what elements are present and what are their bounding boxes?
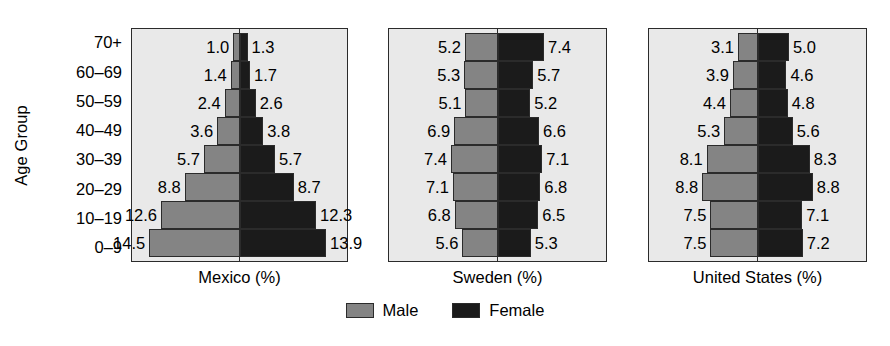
plot-panel-united-states: 3.15.03.94.64.44.85.35.68.18.38.88.87.57…: [648, 28, 867, 262]
pyramid-row: 5.15.2: [389, 89, 606, 117]
value-label-male-sweden-40–49: 6.9: [427, 123, 450, 140]
value-label-female-mexico-40–49: 3.8: [267, 123, 290, 140]
pyramid-row: 5.35.7: [389, 61, 606, 89]
pyramid-row: 8.88.7: [132, 173, 347, 201]
bar-male-mexico-30–39: [204, 145, 239, 172]
pyramid-row: 7.16.8: [389, 173, 606, 201]
legend-swatch-female-icon: [452, 303, 480, 318]
value-label-female-united-states-50–59: 4.8: [792, 95, 815, 112]
bar-male-sweden-30–39: [451, 145, 498, 172]
value-label-female-united-states-30–39: 8.3: [814, 151, 837, 168]
value-label-male-united-states-30–39: 8.1: [680, 151, 703, 168]
y-tick-50-59: 50–59: [38, 93, 126, 110]
bar-female-united-states-60–69: [758, 61, 787, 88]
bar-female-sweden-70+: [498, 33, 545, 60]
pyramid-row: 2.42.6: [132, 89, 347, 117]
value-label-male-united-states-70+: 3.1: [711, 39, 734, 56]
value-label-female-mexico-30–39: 5.7: [279, 151, 302, 168]
bar-male-sweden-50–59: [465, 89, 497, 116]
bar-female-mexico-20–29: [240, 173, 294, 200]
bar-female-united-states-10–19: [758, 201, 803, 228]
value-label-male-sweden-0–9: 5.6: [435, 235, 458, 252]
bar-female-sweden-0–9: [498, 229, 531, 256]
bar-male-mexico-0–9: [149, 229, 239, 256]
value-label-female-mexico-60–69: 1.7: [254, 67, 277, 84]
value-label-female-sweden-0–9: 5.3: [535, 235, 558, 252]
plot-panel-mexico: 1.01.31.41.72.42.63.63.85.75.78.88.712.6…: [131, 28, 348, 262]
bar-male-united-states-40–49: [724, 117, 757, 144]
pyramid-row: 1.01.3: [132, 33, 347, 61]
bar-male-sweden-0–9: [462, 229, 497, 256]
value-label-female-sweden-10–19: 6.5: [542, 207, 565, 224]
value-label-male-sweden-70+: 5.2: [438, 39, 461, 56]
value-label-male-sweden-30–39: 7.4: [424, 151, 447, 168]
bar-male-mexico-50–59: [225, 89, 240, 116]
bar-female-mexico-0–9: [240, 229, 327, 256]
bar-male-mexico-60–69: [231, 61, 240, 88]
bar-female-united-states-50–59: [758, 89, 788, 116]
pyramid-row: 3.94.6: [649, 61, 866, 89]
pyramid-row: 4.44.8: [649, 89, 866, 117]
bar-male-united-states-60–69: [733, 61, 758, 88]
bar-male-united-states-0–9: [710, 229, 757, 256]
value-label-male-sweden-60–69: 5.3: [437, 67, 460, 84]
bar-female-united-states-30–39: [758, 145, 810, 172]
value-label-male-mexico-10–19: 12.6: [125, 207, 157, 224]
legend-swatch-male-icon: [346, 303, 374, 318]
pyramid-row: 8.88.8: [649, 173, 866, 201]
y-tick-30-39: 30–39: [38, 151, 126, 168]
legend-label-male: Male: [383, 302, 419, 319]
value-label-female-united-states-70+: 5.0: [793, 39, 816, 56]
plot-area-mexico: 1.01.31.41.72.42.63.63.85.75.78.88.712.6…: [132, 29, 347, 261]
pyramid-row: 3.15.0: [649, 33, 866, 61]
y-tick-10-19: 10–19: [38, 210, 126, 227]
bar-female-sweden-20–29: [498, 173, 541, 200]
y-tick-20-29: 20–29: [38, 181, 126, 198]
bar-female-mexico-50–59: [240, 89, 256, 116]
bar-male-sweden-10–19: [455, 201, 498, 228]
value-label-female-united-states-10–19: 7.1: [806, 207, 829, 224]
y-tick-40-49: 40–49: [38, 122, 126, 139]
value-label-male-sweden-10–19: 6.8: [428, 207, 451, 224]
value-label-male-mexico-0–9: 14.5: [113, 235, 145, 252]
bar-male-mexico-10–19: [161, 201, 239, 228]
bar-male-united-states-70+: [738, 33, 757, 60]
value-label-female-sweden-30–39: 7.1: [546, 151, 569, 168]
value-label-male-united-states-50–59: 4.4: [703, 95, 726, 112]
pyramid-row: 6.86.5: [389, 201, 606, 229]
bar-male-sweden-70+: [465, 33, 498, 60]
bar-rows-mexico: 1.01.31.41.72.42.63.63.85.75.78.88.712.6…: [132, 33, 347, 257]
panel-caption-mexico: Mexico (%): [131, 268, 348, 287]
pyramid-row: 7.57.1: [649, 201, 866, 229]
value-label-female-mexico-20–29: 8.7: [298, 179, 321, 196]
value-label-male-sweden-50–59: 5.1: [439, 95, 462, 112]
bar-female-united-states-0–9: [758, 229, 803, 256]
panel-caption-sweden: Sweden (%): [388, 268, 607, 287]
bar-female-united-states-70+: [758, 33, 789, 60]
value-label-male-mexico-20–29: 8.8: [158, 179, 181, 196]
plot-area-united-states: 3.15.03.94.64.44.85.35.68.18.38.88.87.57…: [649, 29, 866, 261]
value-label-female-mexico-10–19: 12.3: [320, 207, 352, 224]
bar-male-united-states-20–29: [702, 173, 757, 200]
value-label-female-sweden-50–59: 5.2: [534, 95, 557, 112]
pyramid-row: 12.612.3: [132, 201, 347, 229]
y-tick-70plus: 70+: [38, 34, 126, 51]
bar-female-united-states-40–49: [758, 117, 793, 144]
value-label-female-united-states-0–9: 7.2: [807, 235, 830, 252]
value-label-female-sweden-70+: 7.4: [548, 39, 571, 56]
pyramid-row: 7.47.1: [389, 145, 606, 173]
value-label-female-sweden-20–29: 6.8: [544, 179, 567, 196]
pyramid-row: 14.513.9: [132, 229, 347, 257]
value-label-male-united-states-10–19: 7.5: [683, 207, 706, 224]
value-label-female-mexico-0–9: 13.9: [330, 235, 362, 252]
value-label-male-united-states-40–49: 5.3: [697, 123, 720, 140]
legend: Male Female: [0, 302, 890, 319]
y-tick-60-69: 60–69: [38, 64, 126, 81]
plot-panel-sweden: 5.27.45.35.75.15.26.96.67.47.17.16.86.86…: [388, 28, 607, 262]
bar-female-sweden-50–59: [498, 89, 531, 116]
bar-female-mexico-70+: [240, 33, 248, 60]
y-axis-tick-labels: 70+ 60–69 50–59 40–49 30–39 20–29 10–19 …: [38, 28, 126, 262]
bar-female-sweden-40–49: [498, 117, 539, 144]
bar-male-mexico-20–29: [185, 173, 240, 200]
bar-female-mexico-60–69: [240, 61, 251, 88]
